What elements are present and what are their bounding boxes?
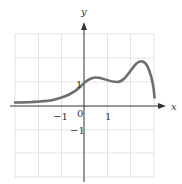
- axes: [10, 28, 160, 182]
- function-graph: y x −1 0 1 1 −1: [0, 0, 182, 184]
- x-axis-arrow-icon: [158, 103, 166, 109]
- x-axis-label: x: [171, 101, 177, 112]
- y-axis-arrow-icon: [81, 22, 87, 30]
- tick-label-x-1: 1: [105, 111, 111, 122]
- tick-label-y-neg1: −1: [70, 125, 85, 136]
- tick-label-x-neg1: −1: [53, 111, 68, 122]
- tick-label-origin: 0: [77, 108, 83, 119]
- y-axis-label: y: [80, 6, 87, 17]
- tick-label-y-1: 1: [76, 79, 82, 90]
